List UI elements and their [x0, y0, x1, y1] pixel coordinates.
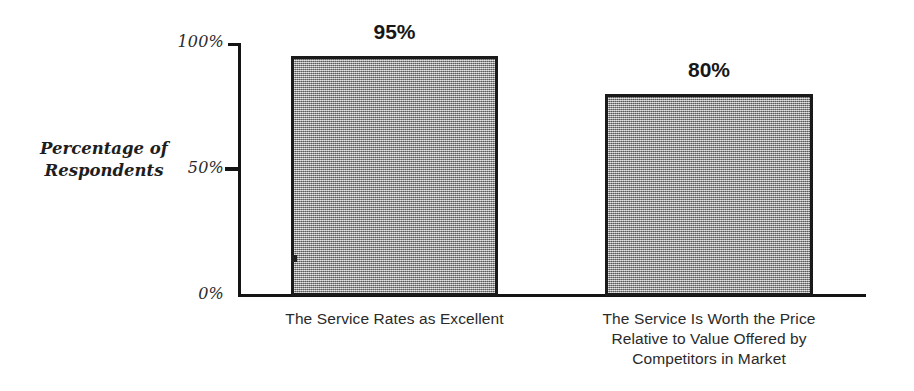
bar-chart: Percentage of Respondents 100% 50% 0% 95…: [0, 0, 914, 391]
category-label-1-line-1: The Service Rates as Excellent: [229, 309, 560, 329]
y-axis-tick-50: [225, 167, 239, 171]
scan-artifact: [291, 255, 297, 262]
category-label-2-line-2: Relative to Value Offered by: [548, 329, 870, 349]
category-label-2: The Service Is Worth the Price Relative …: [548, 309, 870, 369]
y-tick-label-0: 0%: [198, 284, 224, 303]
y-axis-tick-100: [228, 43, 239, 46]
y-axis-title-line-2: Respondents: [24, 160, 184, 182]
category-label-2-line-3: Competitors in Market: [548, 349, 870, 369]
bar-value-label-1: 95%: [291, 20, 498, 44]
category-label-1: The Service Rates as Excellent: [229, 309, 560, 329]
bar-service-worth-price: [605, 94, 813, 297]
bar-service-rates-excellent: [291, 56, 498, 296]
y-tick-label-50: 50%: [188, 158, 224, 177]
bar-value-label-2: 80%: [605, 58, 813, 82]
y-axis-title: Percentage of Respondents: [24, 138, 184, 182]
y-tick-label-100: 100%: [177, 32, 224, 51]
category-label-2-line-1: The Service Is Worth the Price: [548, 309, 870, 329]
y-axis-title-line-1: Percentage of: [24, 138, 184, 160]
